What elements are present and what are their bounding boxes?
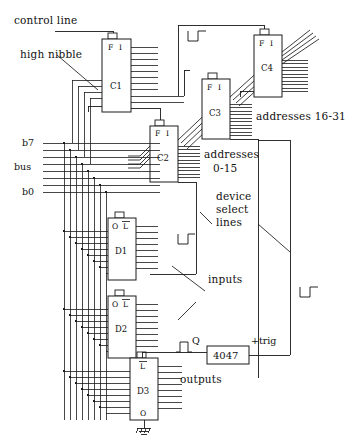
annotation-addresses-0-15-line2: 0-15: [213, 162, 237, 174]
chip-4047-label: 4047: [213, 350, 238, 361]
pulse-symbol-top: [188, 31, 206, 41]
c1-output-bundle: [131, 47, 184, 102]
annotation-device-select-line3: lines: [216, 216, 242, 228]
chip-4047-trig-label: +trig: [251, 335, 276, 346]
d2-output-lines: [136, 304, 158, 346]
chip-d2-pin-l: L: [123, 300, 128, 309]
chip-4047-q-label: Q: [192, 335, 200, 346]
c4-control-feed: [178, 25, 264, 31]
pulse-symbol-right: [300, 287, 318, 297]
chip-c2-label: C2: [157, 153, 169, 163]
chip-c2-pin-f: F: [155, 129, 160, 138]
control-line-wire: [55, 31, 113, 38]
chip-c1-label: C1: [110, 81, 122, 91]
bus-lines: [43, 143, 160, 192]
annotation-high-nibble: high nibble: [20, 48, 82, 60]
chip-d1-label: D1: [115, 246, 127, 256]
annotation-addresses-16-31: addresses 16-31: [256, 110, 346, 122]
annotation-device-select-line2: select: [216, 203, 249, 215]
c1-input-lines: [72, 80, 102, 98]
c4-top-bundle: [282, 30, 319, 64]
d3-input-lines: [64, 371, 130, 413]
c4-output-bundle: [282, 60, 308, 92]
chip-d2-label: D2: [115, 324, 127, 334]
bus-label-name: bus: [14, 161, 31, 172]
chip-d3-pin-o: O: [140, 409, 146, 418]
d3-output-lines: [158, 366, 182, 408]
c2-output-bundle: [178, 146, 200, 178]
chip-c1-pin-f: F: [108, 43, 113, 52]
chip-c3-pin-f: F: [207, 83, 212, 92]
annotation-control-line: control line: [14, 14, 77, 26]
schematic-diagram: F I C1 F I C2: [0, 0, 355, 442]
chip-d3-pin-l: L: [140, 362, 145, 371]
annotation-device-select-line1: device: [216, 190, 252, 202]
pulse-symbol-device-select: [178, 234, 195, 244]
chip-d2-pin-o: O: [112, 300, 118, 309]
leader-inputs-lower: [178, 302, 196, 320]
c3-output-bundle: [230, 104, 252, 136]
chip-d3-label: D3: [137, 386, 149, 396]
leader-device-select-left: [200, 212, 212, 224]
chip-d1-pin-l: L: [123, 222, 128, 231]
schematic-canvas: F I C1 F I C2: [0, 0, 355, 442]
c1-input-risers: [72, 80, 90, 164]
d1-output-lines: [136, 226, 158, 268]
bus-label-b7: b7: [22, 137, 34, 148]
ground-symbol: [136, 420, 151, 434]
chip-c4-pin-f: F: [259, 39, 264, 48]
c1-route-a: [184, 70, 190, 96]
chip-c4-pin-i: I: [270, 39, 273, 48]
chip-c3-pin-i: I: [218, 83, 221, 92]
chip-c2-pin-i: I: [166, 129, 169, 138]
annotation-addresses-0-15-line1: addresses: [204, 148, 259, 160]
chip-c4-label: C4: [261, 63, 273, 73]
chip-c3-label: C3: [209, 108, 221, 118]
leader-high-nibble: [57, 55, 98, 90]
chip-c1: [102, 33, 131, 112]
leader-inputs-upper: [172, 266, 205, 291]
annotation-inputs: inputs: [208, 273, 242, 285]
chip-d1-pin-o: O: [112, 222, 118, 231]
annotation-outputs: outputs: [180, 373, 222, 385]
bus-label-b0: b0: [22, 186, 34, 197]
leader-device-select-right: [258, 224, 290, 252]
pulse-symbol-q: [176, 342, 192, 352]
c1-to-c2-route: [131, 108, 160, 120]
c2-device-select-route: [150, 182, 196, 274]
chip-c1-pin-i: I: [119, 43, 122, 52]
